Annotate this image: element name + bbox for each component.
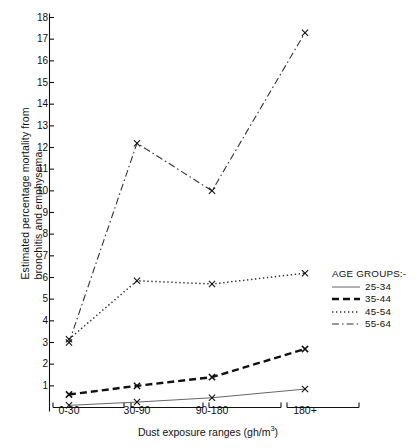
- y-tick-label: 11: [22, 164, 48, 174]
- legend-item-45-54[interactable]: 45-54: [332, 306, 406, 318]
- legend-item-55-64[interactable]: 55-64: [332, 318, 406, 330]
- y-tick-label: 17: [22, 34, 48, 44]
- y-tick-label: 16: [22, 56, 48, 66]
- y-tick-label: 14: [22, 99, 48, 109]
- y-tick-label: 12: [22, 143, 48, 153]
- series-line-55-64: [69, 33, 305, 343]
- plot-area: [0, 0, 416, 448]
- legend-swatch-dashdot-icon: [332, 319, 360, 329]
- legend: AGE GROUPS:- 25-3435-4445-5455-64: [332, 268, 406, 330]
- series-35-44: [66, 346, 308, 398]
- legend-label: 35-44: [365, 293, 391, 305]
- y-tick-label: 9: [22, 208, 48, 218]
- series-45-54: [66, 270, 308, 342]
- y-tick-label: 3: [22, 338, 48, 348]
- y-tick-label: 1: [22, 381, 48, 391]
- x-axis-title-close: ): [275, 426, 279, 438]
- y-tick-label: 6: [22, 273, 48, 283]
- y-tick-label: 18: [22, 13, 48, 23]
- series-line-25-34: [69, 389, 305, 405]
- legend-label: 55-64: [365, 318, 391, 330]
- legend-title: AGE GROUPS:-: [332, 268, 406, 280]
- chart-figure: Estimated percentage mortality from bron…: [0, 0, 416, 448]
- legend-label: 25-34: [365, 281, 391, 293]
- x-axis-title: Dust exposure ranges (gh/m3): [0, 424, 416, 438]
- y-tick-label: 4: [22, 316, 48, 326]
- y-tick-label: 2: [22, 359, 48, 369]
- y-tick-label: 15: [22, 78, 48, 88]
- legend-swatch-dashed-icon: [332, 294, 360, 304]
- legend-item-35-44[interactable]: 35-44: [332, 293, 406, 305]
- y-axis-tick-labels: 181716151413121110987654321: [18, 0, 48, 448]
- series-line-35-44: [69, 349, 305, 395]
- legend-item-25-34[interactable]: 25-34: [332, 281, 406, 293]
- legend-swatch-dotted-icon: [332, 307, 360, 317]
- x-axis-title-text: Dust exposure ranges (gh/m: [138, 426, 270, 438]
- x-tick-label: 30-90: [97, 405, 177, 416]
- legend-swatch-solid-icon: [332, 282, 360, 292]
- y-tick-label: 5: [22, 294, 48, 304]
- series-55-64: [66, 30, 308, 346]
- y-tick-label: 13: [22, 121, 48, 131]
- x-tick-label: 90-180: [172, 405, 252, 416]
- legend-label: 45-54: [365, 306, 391, 318]
- x-tick-label: 180+: [265, 405, 345, 416]
- y-tick-label: 10: [22, 186, 48, 196]
- series-line-45-54: [69, 273, 305, 339]
- y-tick-label: 7: [22, 251, 48, 261]
- y-tick-label: 8: [22, 229, 48, 239]
